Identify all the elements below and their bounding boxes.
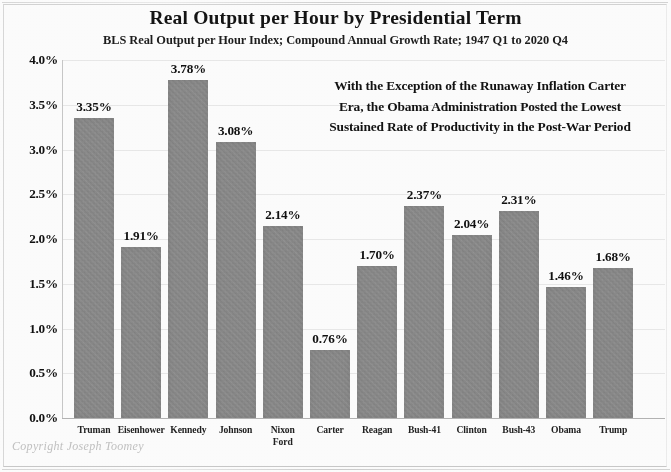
copyright-watermark: Copyright Joseph Toomey	[12, 439, 144, 454]
y-axis-tick-label: 3.0%	[2, 142, 58, 158]
x-axis-category-label: Clinton	[456, 424, 486, 436]
bar[interactable]	[499, 211, 539, 418]
y-axis-line	[62, 60, 63, 419]
bar[interactable]	[216, 142, 256, 418]
bar-group[interactable]: 3.78%Kennedy	[168, 60, 208, 418]
y-axis-tick-label: 0.0%	[2, 410, 58, 426]
bar[interactable]	[168, 80, 208, 418]
annotation-line: Sustained Rate of Productivity in the Po…	[296, 117, 664, 138]
bar-value-label: 2.14%	[265, 207, 300, 223]
bar-group[interactable]: 3.35%Truman	[74, 60, 114, 418]
chart-title: Real Output per Hour by Presidential Ter…	[0, 7, 671, 29]
chart-page: Real Output per Hour by Presidential Ter…	[0, 0, 671, 472]
y-axis-tick-label: 1.5%	[2, 276, 58, 292]
bar[interactable]	[357, 266, 397, 418]
bar-value-label: 1.91%	[124, 228, 159, 244]
x-axis-line	[62, 418, 665, 419]
y-axis-tick-labels: 0.0%0.5%1.0%1.5%2.0%2.5%3.0%3.5%4.0%	[0, 0, 58, 472]
bar[interactable]	[121, 247, 161, 418]
annotation-callout: With the Exception of the Runaway Inflat…	[296, 76, 664, 138]
x-axis-category-label: Carter	[316, 424, 343, 436]
bar[interactable]	[546, 287, 586, 418]
y-axis-tick-label: 3.5%	[2, 97, 58, 113]
annotation-line: With the Exception of the Runaway Inflat…	[296, 76, 664, 97]
x-axis-category-label: Reagan	[362, 424, 392, 436]
x-axis-category-label: NixonFord	[271, 424, 295, 447]
bar-value-label: 2.31%	[501, 192, 536, 208]
bar-value-label: 3.78%	[171, 61, 206, 77]
bar-value-label: 2.04%	[454, 216, 489, 232]
x-axis-category-label: Eisenhower	[118, 424, 165, 436]
annotation-line: Era, the Obama Administration Posted the…	[296, 97, 664, 118]
bar-value-label: 1.70%	[360, 247, 395, 263]
x-axis-category-label: Truman	[78, 424, 111, 436]
y-axis-tick-label: 2.5%	[2, 186, 58, 202]
bar-value-label: 3.08%	[218, 123, 253, 139]
y-axis-tick-label: 4.0%	[2, 52, 58, 68]
bar[interactable]	[74, 118, 114, 418]
x-axis-category-label: Bush-41	[408, 424, 441, 436]
bar[interactable]	[404, 206, 444, 418]
bar-group[interactable]: 3.08%Johnson	[216, 60, 256, 418]
bar[interactable]	[593, 268, 633, 418]
bar[interactable]	[263, 226, 303, 418]
x-axis-category-label: Kennedy	[170, 424, 206, 436]
x-axis-category-label: Trump	[599, 424, 627, 436]
chart-subtitle: BLS Real Output per Hour Index; Compound…	[0, 33, 671, 48]
y-axis-tick-label: 1.0%	[2, 321, 58, 337]
bar-value-label: 1.46%	[548, 268, 583, 284]
bar[interactable]	[310, 350, 350, 418]
bar-value-label: 0.76%	[312, 331, 347, 347]
bar-value-label: 1.68%	[596, 249, 631, 265]
x-axis-category-label: Obama	[551, 424, 581, 436]
y-axis-tick-label: 2.0%	[2, 231, 58, 247]
bar-group[interactable]: 1.91%Eisenhower	[121, 60, 161, 418]
x-axis-category-label: Johnson	[219, 424, 252, 436]
x-axis-category-label: Bush-43	[502, 424, 535, 436]
bar-value-label: 2.37%	[407, 187, 442, 203]
bar-value-label: 3.35%	[76, 99, 111, 115]
bar[interactable]	[452, 235, 492, 418]
y-axis-tick-label: 0.5%	[2, 365, 58, 381]
